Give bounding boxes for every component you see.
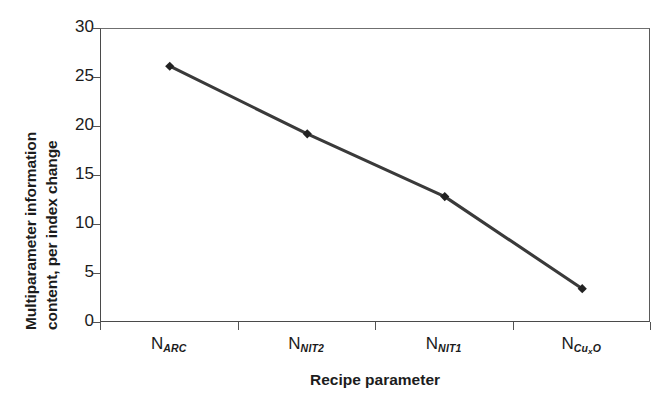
y-axis-tick-label: 25 <box>60 66 94 86</box>
x-axis-tick-mark <box>100 322 101 330</box>
x-axis-tick-mark <box>513 322 514 330</box>
x-axis-tick-mark <box>650 322 651 330</box>
y-axis-tick-label: 10 <box>60 213 94 233</box>
plot-area <box>100 28 650 322</box>
y-axis-tick-labels: 051015202530 <box>58 0 94 408</box>
y-axis-tick-label: 0 <box>60 311 94 331</box>
data-series-svg <box>101 29 651 323</box>
y-axis-tick-label: 20 <box>60 115 94 135</box>
chart-figure: Multiparameter information content, per … <box>0 0 671 408</box>
x-axis-category-label: NARC <box>109 334 229 354</box>
y-axis-title: Multiparameter information content, per … <box>20 20 63 330</box>
x-axis-tick-mark <box>238 322 239 330</box>
x-axis-tick-mark <box>375 322 376 330</box>
x-axis-title: Recipe parameter <box>100 371 650 389</box>
y-axis-title-container: Multiparameter information content, per … <box>0 0 62 408</box>
y-axis-tick-label: 15 <box>60 164 94 184</box>
x-axis-category-label: NNIT1 <box>384 334 504 354</box>
y-axis-title-line1: Multiparameter information <box>22 132 39 330</box>
x-axis-category-label: NCuxO <box>521 334 641 356</box>
y-axis-tick-label: 5 <box>60 262 94 282</box>
y-axis-tick-label: 30 <box>60 17 94 37</box>
x-axis-category-label: NNIT2 <box>246 334 366 354</box>
data-line <box>170 66 583 289</box>
